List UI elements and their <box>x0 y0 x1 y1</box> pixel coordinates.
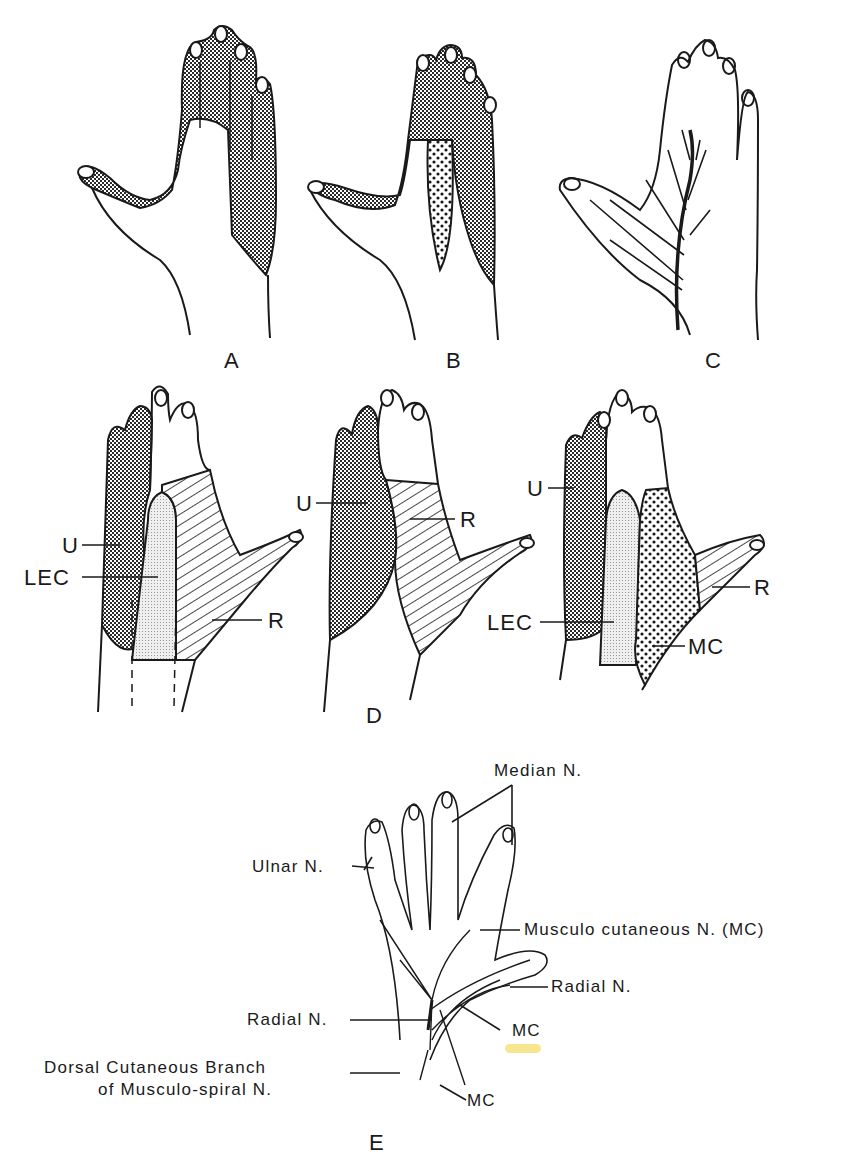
hand-a <box>78 26 276 338</box>
d2-label-radial: R <box>460 509 477 531</box>
hand-c <box>560 40 758 340</box>
d1-label-lec: LEC <box>24 567 70 589</box>
yellow-highlight-mark <box>505 1044 541 1053</box>
e-label-mc-upper: MC <box>512 1022 541 1039</box>
e-label-radial-right: Radial N. <box>551 978 632 995</box>
d3-label-lec: LEC <box>487 612 533 634</box>
panel-label-b: B <box>446 350 461 372</box>
d3-label-ulnar: U <box>527 478 544 500</box>
d1-label-ulnar: U <box>62 535 79 557</box>
hand-d1 <box>82 386 303 712</box>
hand-b <box>308 45 498 340</box>
e-label-musculo-cutaneous: Musculo cutaneous N. (MC) <box>524 921 765 938</box>
hand-d2 <box>316 390 534 712</box>
e-label-dorsal-line2: of Musculo-spiral N. <box>98 1081 272 1098</box>
panel-label-e: E <box>369 1132 384 1154</box>
panel-label-d: D <box>366 705 382 727</box>
d2-label-ulnar: U <box>296 493 313 515</box>
e-label-mc-lower: MC <box>467 1092 496 1109</box>
d3-label-musculocutaneous: MC <box>688 636 724 658</box>
e-label-ulnar: Ulnar N. <box>252 858 324 875</box>
nerve-distribution-figure: A B C D E U LEC R U R U LEC R MC Median … <box>0 0 851 1164</box>
hand-d3 <box>540 390 764 690</box>
d3-label-radial: R <box>754 577 771 599</box>
hand-illustrations <box>0 0 851 1164</box>
d1-label-radial: R <box>268 610 285 632</box>
e-label-median: Median N. <box>494 762 582 779</box>
e-label-dorsal-line1: Dorsal Cutaneous Branch <box>44 1059 266 1076</box>
e-label-radial-left: Radial N. <box>247 1011 328 1028</box>
panel-label-c: C <box>705 350 721 372</box>
panel-label-a: A <box>224 350 239 372</box>
